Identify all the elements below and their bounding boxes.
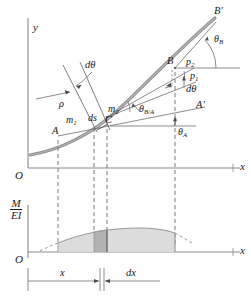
radius-line-m1 bbox=[63, 65, 97, 132]
m-over-ei-curve-left-extension bbox=[40, 243, 58, 251]
figure-vector-graphics bbox=[0, 0, 251, 300]
radius-line-m2 bbox=[80, 62, 110, 130]
tangent-line-at-A bbox=[58, 107, 205, 136]
tangent-line-p2 bbox=[107, 68, 194, 117]
rho-leader-line bbox=[36, 92, 70, 99]
elastic-curve-highlight bbox=[30, 18, 215, 155]
angle-arc-theta-B bbox=[205, 40, 216, 68]
lower-y-axis-label-denominator: EI bbox=[10, 209, 22, 221]
tangent-line-at-B bbox=[175, 22, 216, 68]
dimension-x-arrowhead-right bbox=[94, 279, 99, 283]
rho-arrowhead bbox=[65, 90, 70, 95]
dimension-dx-arrowhead-left bbox=[105, 279, 110, 283]
point-B-marker bbox=[174, 67, 176, 69]
m-over-ei-shaded-area bbox=[58, 228, 175, 252]
lower-y-axis-label-fraction: M EI bbox=[10, 198, 22, 221]
theta-BA-arrowhead bbox=[131, 103, 135, 107]
m-over-ei-strip-dx bbox=[94, 230, 107, 252]
dtheta-lower-arrowhead bbox=[182, 76, 186, 80]
angle-arc-theta-BA bbox=[128, 101, 130, 112]
point-C-marker bbox=[106, 116, 108, 118]
lower-y-axis-label-numerator: M bbox=[10, 198, 22, 209]
m-over-ei-curve-right-extension bbox=[175, 233, 192, 243]
figure-container: y x O A C B B′ A′ ρ m1 m2 ds dθ dθ p1 p2… bbox=[0, 0, 251, 300]
elastic-curve bbox=[30, 18, 215, 155]
